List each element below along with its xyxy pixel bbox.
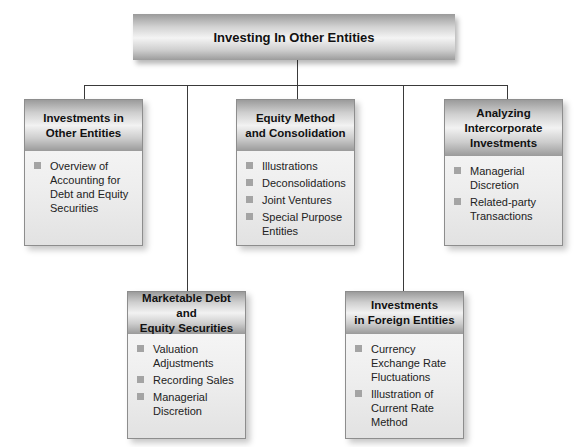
square-bullet-icon (246, 213, 253, 220)
node-header: Equity Method and Consolidation (237, 100, 354, 151)
node-title-line: Intercorporate (465, 121, 543, 136)
node-topic-list: Illustrations Deconsolidations Joint Ven… (237, 151, 354, 238)
square-bullet-icon (454, 198, 461, 205)
connector-to-marketable-debt (187, 85, 188, 291)
node-investments-in-foreign-entities: Investments in Foreign Entities Currency… (345, 291, 464, 439)
square-bullet-icon (34, 162, 41, 169)
square-bullet-icon (454, 167, 461, 174)
square-bullet-icon (246, 162, 253, 169)
root-node: Investing In Other Entities (133, 14, 455, 60)
node-topic-list: Overview of Accounting for Debt and Equi… (25, 151, 142, 215)
list-item: Deconsolidations (245, 176, 348, 190)
square-bullet-icon (137, 345, 144, 352)
node-header: Analyzing Intercorporate Investments (445, 100, 562, 156)
node-title-line: Investments in (43, 111, 124, 126)
node-investments-in-other-entities: Investments in Other Entities Overview o… (24, 99, 143, 246)
node-header: Investments in Other Entities (25, 100, 142, 151)
square-bullet-icon (355, 390, 362, 397)
node-title-line: Equity Securities (132, 321, 241, 336)
root-stem-connector (297, 60, 298, 85)
node-marketable-debt-and-equity-securities: Marketable Debt and Equity Securities Va… (127, 291, 246, 439)
root-title: Investing In Other Entities (213, 30, 374, 45)
square-bullet-icon (246, 179, 253, 186)
connector-to-investments-in-other-entities (84, 85, 85, 99)
node-title-line: in Foreign Entities (354, 313, 454, 328)
list-item: Special Purpose Entities (245, 210, 348, 238)
node-title-line: Marketable Debt and (132, 291, 241, 321)
node-header: Investments in Foreign Entities (346, 292, 463, 334)
node-title-line: Other Entities (43, 126, 124, 141)
node-title-line: Investments (354, 298, 454, 313)
horizontal-connector (84, 85, 508, 86)
node-topic-list: Managerial Discretion Related-party Tran… (445, 156, 562, 223)
square-bullet-icon (355, 345, 362, 352)
node-title-line: Analyzing (465, 106, 543, 121)
connector-to-foreign-entities (403, 85, 404, 291)
list-item: Related-party Transactions (453, 195, 556, 223)
list-item: Currency Exchange Rate Fluctuations (354, 342, 457, 384)
node-title-line: and Consolidation (245, 126, 345, 141)
square-bullet-icon (246, 196, 253, 203)
node-analyzing-intercorporate-investments: Analyzing Intercorporate Investments Man… (444, 99, 563, 246)
square-bullet-icon (137, 393, 144, 400)
square-bullet-icon (137, 376, 144, 383)
node-header: Marketable Debt and Equity Securities (128, 292, 245, 334)
list-item: Managerial Discretion (136, 390, 239, 418)
connector-to-equity-method (297, 85, 298, 99)
list-item: Illustrations (245, 159, 348, 173)
node-title-line: Equity Method (245, 111, 345, 126)
list-item: Recording Sales (136, 373, 239, 387)
connector-to-analyzing-intercorporate (507, 85, 508, 99)
node-topic-list: Valuation Adjustments Recording Sales Ma… (128, 334, 245, 418)
node-topic-list: Currency Exchange Rate Fluctuations Illu… (346, 334, 463, 429)
node-title-line: Investments (465, 136, 543, 151)
list-item: Valuation Adjustments (136, 342, 239, 370)
list-item: Joint Ventures (245, 193, 348, 207)
list-item: Managerial Discretion (453, 164, 556, 192)
list-item: Overview of Accounting for Debt and Equi… (33, 159, 136, 215)
node-equity-method-and-consolidation: Equity Method and Consolidation Illustra… (236, 99, 355, 246)
list-item: Illustration of Current Rate Method (354, 387, 457, 429)
